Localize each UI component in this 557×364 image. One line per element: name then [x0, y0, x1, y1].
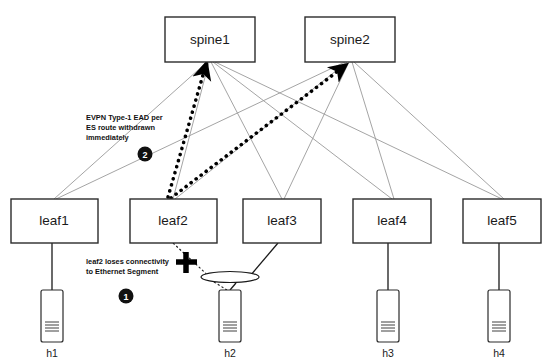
link-failure-cross-icon: [176, 252, 197, 273]
evpn-withdraw-arrows-group: [168, 68, 342, 198]
host-node-h3[interactable]: h3: [377, 290, 399, 359]
leaf1-label: leaf1: [39, 213, 68, 228]
leaf5-label: leaf5: [487, 213, 516, 228]
h2-label: h2: [224, 347, 236, 359]
host-node-h1[interactable]: h1: [41, 290, 63, 359]
fabric-link-spine2-leaf3: [284, 62, 349, 199]
host-node-h4[interactable]: h4: [488, 290, 510, 359]
annotation-1-line-1: leaf2 loses connectivity: [86, 257, 170, 266]
h4-server-icon[interactable]: [488, 290, 510, 342]
host-link-leaf3-es: [250, 243, 278, 276]
spine-node-spine1[interactable]: spine1: [165, 17, 255, 62]
annotation-1-line-2: to Ethernet Segment: [86, 267, 159, 276]
annotation-2-line-3: immediately: [86, 133, 130, 142]
h1-label: h1: [46, 347, 58, 359]
annotation-1-badge-number: 1: [123, 292, 128, 302]
fabric-link-spine1-leaf2: [173, 62, 209, 199]
ethernet-segment-bus: [201, 272, 259, 283]
annotation-evpn-withdrawal: EVPN Type-1 EAD per ES route withdrawn i…: [86, 113, 163, 162]
h4-label: h4: [493, 347, 505, 359]
h3-label: h3: [382, 347, 394, 359]
spine2-label: spine2: [330, 32, 370, 47]
leaf-node-leaf5[interactable]: leaf5: [463, 199, 541, 243]
host-link-es-h2: [230, 283, 236, 290]
leaf4-label: leaf4: [377, 213, 407, 228]
leaf-node-leaf2[interactable]: leaf2: [130, 199, 217, 243]
annotation-2-line-1: EVPN Type-1 EAD per: [86, 113, 163, 122]
fabric-link-spine2-leaf5: [354, 62, 504, 199]
fabric-link-spine1-leaf3: [211, 62, 282, 199]
leaf-node-leaf4[interactable]: leaf4: [353, 199, 431, 243]
network-topology-diagram: spine1 spine2 leaf1 leaf2 leaf3 leaf4 le…: [0, 0, 557, 364]
leaf2-label: leaf2: [158, 213, 187, 228]
spine-node-spine2[interactable]: spine2: [305, 17, 395, 62]
h1-server-icon[interactable]: [41, 290, 63, 342]
withdraw-arrow-leaf2-spine2: [171, 68, 342, 198]
withdraw-arrow-leaf2-spine1: [168, 68, 205, 197]
leaf-node-leaf1[interactable]: leaf1: [11, 199, 98, 243]
leaf3-label: leaf3: [267, 213, 296, 228]
annotation-leaf2-connectivity-loss: leaf2 loses connectivity to Ethernet Seg…: [86, 257, 170, 304]
spine1-label: spine1: [190, 32, 230, 47]
host-link-es-h2-backup: [214, 282, 227, 290]
leaf-node-leaf3[interactable]: leaf3: [243, 199, 321, 243]
annotation-2-line-2: ES route withdrawn: [86, 123, 155, 132]
h3-server-icon[interactable]: [377, 290, 399, 342]
h2-server-icon[interactable]: [219, 290, 241, 342]
host-node-h2[interactable]: h2: [219, 290, 241, 359]
annotation-2-badge-number: 2: [142, 150, 147, 160]
